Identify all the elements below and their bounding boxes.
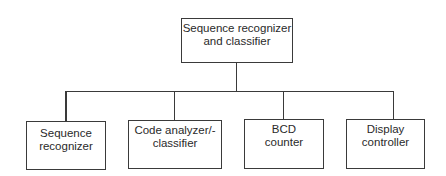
child-1-label-line1: Sequence: [27, 127, 105, 140]
root-node-label: Sequence recognizer and classifier: [182, 19, 292, 48]
child-2-connector: [174, 91, 176, 121]
horizontal-bus-connector: [65, 91, 394, 93]
child-node-sequence-recognizer: Sequence recognizer: [26, 121, 106, 170]
child-node-display-controller: Display controller: [346, 119, 425, 169]
child-3-label-line1: BCD: [245, 123, 323, 136]
child-4-label-line2: controller: [347, 136, 424, 149]
child-2-label-line2: classifier: [129, 137, 221, 150]
child-node-code-analyzer-classifier: Code analyzer/- classifier: [128, 120, 222, 169]
child-1-label-line2: recognizer: [27, 140, 105, 153]
root-stem-connector: [236, 62, 238, 92]
child-4-connector: [393, 91, 395, 120]
child-3-label-line2: counter: [245, 136, 323, 149]
child-1-connector: [65, 91, 67, 122]
child-node-bcd-counter: BCD counter: [244, 119, 324, 169]
root-node-box: Sequence recognizer and classifier: [181, 18, 293, 63]
root-label-line1: Sequence recognizer: [182, 22, 292, 35]
child-2-label-line1: Code analyzer/-: [129, 124, 221, 137]
child-3-connector: [283, 91, 285, 120]
child-4-label-line1: Display: [347, 123, 424, 136]
root-label-line2: and classifier: [182, 35, 292, 48]
